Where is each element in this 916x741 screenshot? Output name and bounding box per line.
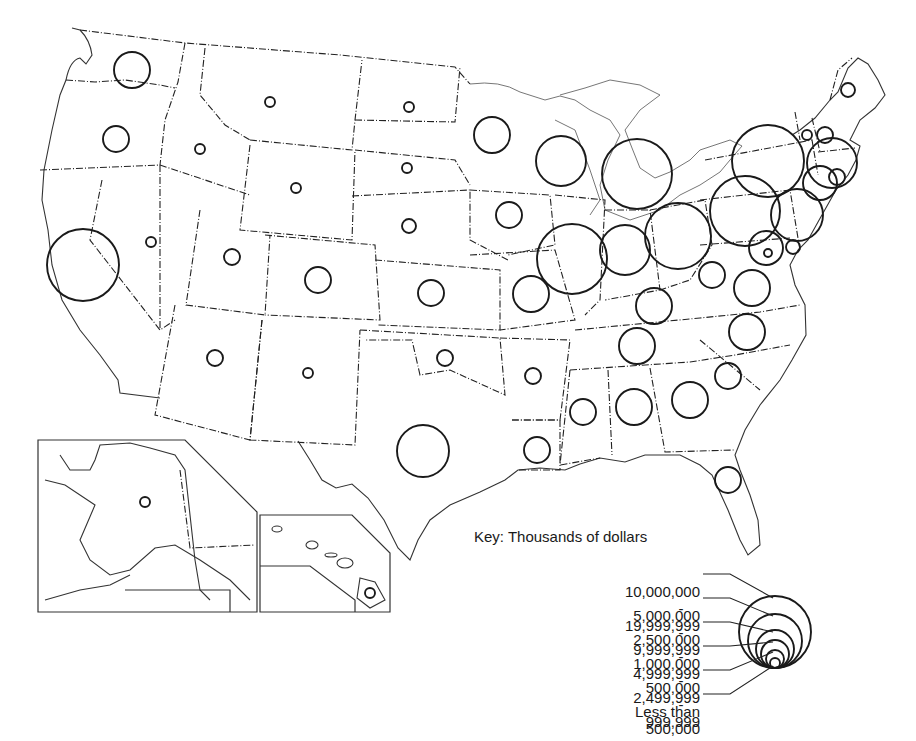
- key-circle: [748, 614, 802, 668]
- state-circle-indiana: [600, 225, 650, 275]
- coastline: [42, 28, 885, 560]
- state-circle-florida: [715, 467, 741, 493]
- state-circle-vermont: [802, 130, 812, 140]
- state-circle-georgia: [672, 382, 708, 418]
- state-circle-colorado: [305, 267, 331, 293]
- state-circle-tennessee: [619, 328, 655, 364]
- state-circle-wyoming: [291, 183, 301, 193]
- state-circle-north-dakota: [404, 102, 414, 112]
- key-leader-line: [703, 598, 773, 616]
- key-row-low: Less than: [635, 703, 700, 720]
- state-circle-west-virginia: [699, 262, 725, 288]
- state-circle-new-hampshire: [817, 127, 833, 143]
- state-circle-idaho: [195, 144, 205, 154]
- state-circle-michigan: [602, 139, 672, 209]
- us-map: [0, 0, 916, 741]
- state-circle-louisiana: [524, 437, 550, 463]
- state-circle-hawaii: [365, 588, 375, 598]
- state-circle-missouri: [513, 276, 549, 312]
- key-row-high: 500,000: [616, 720, 700, 737]
- state-circle-utah: [224, 249, 240, 265]
- state-circle-new-york: [732, 125, 804, 197]
- state-circle-california: [47, 229, 119, 301]
- state-circle-district-of-columbia: [764, 249, 772, 257]
- state-circle-washington: [114, 52, 150, 88]
- state-circle-kentucky: [636, 288, 672, 324]
- state-circle-pennsylvania: [710, 176, 780, 246]
- alaska-inset: [38, 440, 257, 612]
- state-circle-alaska: [140, 497, 150, 507]
- state-circle-virginia: [734, 270, 770, 306]
- key-leader-line: [703, 642, 773, 646]
- state-boundaries: [40, 30, 855, 470]
- state-circle-montana: [265, 97, 275, 107]
- state-circle-mississippi: [570, 399, 596, 425]
- state-circle-arkansas: [525, 368, 541, 384]
- state-circle-south-carolina: [715, 363, 741, 389]
- key-circles: [703, 574, 811, 694]
- state-circle-oklahoma: [437, 350, 453, 366]
- state-circle-delaware: [786, 240, 800, 254]
- state-circle-minnesota: [474, 117, 510, 153]
- state-circle-alabama: [616, 389, 652, 425]
- state-circle-massachusetts: [807, 138, 857, 188]
- state-circle-south-dakota: [402, 163, 412, 173]
- state-circle-arizona: [207, 350, 223, 366]
- state-circle-kansas: [418, 280, 444, 306]
- state-circle-new-mexico: [303, 368, 313, 378]
- state-circle-texas: [397, 425, 449, 477]
- state-circle-nebraska: [402, 219, 416, 233]
- key-leader-line: [703, 574, 773, 598]
- key-title: Key: Thousands of dollars: [474, 528, 647, 545]
- state-circle-iowa: [496, 202, 522, 228]
- state-circle-north-carolina: [729, 314, 765, 350]
- state-circle-maryland: [749, 231, 783, 265]
- key-circle: [761, 640, 789, 668]
- key-circle: [766, 650, 784, 668]
- state-circle-maine: [841, 83, 855, 97]
- state-circle-ohio: [645, 203, 711, 269]
- state-circle-nevada: [146, 237, 156, 247]
- state-circles: [47, 52, 857, 598]
- state-circle-illinois: [537, 224, 607, 294]
- key-leader-line: [703, 622, 773, 632]
- state-circle-oregon: [103, 126, 129, 152]
- key-row: Less than 500,000: [474, 686, 700, 737]
- state-circle-wisconsin: [536, 136, 586, 186]
- great-lakes: [470, 80, 742, 220]
